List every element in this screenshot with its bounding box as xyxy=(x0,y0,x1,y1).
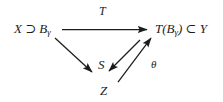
commutative-diagram: X ⊃ Bγ T(Bγ) ⊂ Y S Z T θ xyxy=(0,0,223,102)
node-label-mid: S xyxy=(98,58,105,71)
theta-arrow-label: θ xyxy=(151,59,156,70)
diagram-arrows-layer xyxy=(0,0,223,102)
bottom-to-mid-arrow-line xyxy=(109,40,140,71)
node-target-suffix: ) ⊂ Y xyxy=(178,21,207,36)
node-source-base: X ⊃ B xyxy=(14,21,47,36)
source-to-mid-arrow-line xyxy=(55,38,92,72)
node-label-target: T(Bγ) ⊂ Y xyxy=(155,22,207,37)
node-target-prefix: T(B xyxy=(155,21,175,36)
top-arrow-label: T xyxy=(99,5,106,17)
bottom-to-target-arrow-line xyxy=(118,38,151,82)
node-label-bottom: Z xyxy=(100,84,107,97)
node-label-source: X ⊃ Bγ xyxy=(14,22,51,37)
node-source-subscript: γ xyxy=(47,27,50,37)
